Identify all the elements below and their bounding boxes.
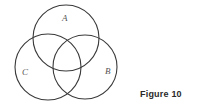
label-a: A (61, 13, 68, 23)
label-b: B (105, 66, 111, 76)
figure-caption: Figure 10 (140, 89, 182, 99)
label-c: C (22, 67, 29, 77)
